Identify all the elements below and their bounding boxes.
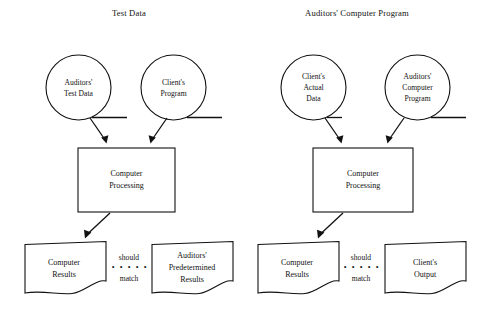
audit-flowchart-diagram: Test Data Auditors' Test Data Client's P… [0,0,488,318]
node-clients-program: Client's Program [141,55,222,120]
label-auditors-computer-program-line2: Computer [402,83,433,92]
arrow-processing-to-results-left [84,213,110,239]
comparator-right-should: should [351,253,371,262]
comparator-left-should: should [119,253,139,262]
label-computer-processing-right-line2: Processing [346,181,381,190]
label-clients-program-line1: Client's [162,78,185,87]
label-clients-actual-data-line3: Data [306,94,321,103]
flowchart-canvas: Test Data Auditors' Test Data Client's P… [0,0,488,318]
label-clients-output-line1: Client's [413,258,437,267]
label-computer-results-right-line1: Computer [281,258,313,267]
arrow-processing-to-results-right [317,213,343,239]
process-computer-processing-left: Computer Processing [78,148,175,212]
label-auditors-predetermined-results-line3: Results [180,275,204,284]
label-computer-results-right-line2: Results [285,270,309,279]
doc-shape-computer-results-right [258,242,339,294]
label-auditors-predetermined-results-line1: Auditors' [177,251,207,260]
circle-auditors-test-data [46,55,111,120]
doc-shape-clients-output [385,242,466,294]
label-clients-program-line2: Program [160,89,186,98]
label-auditors-test-data-line2: Test Data [64,89,93,98]
comparator-left-match: match [120,274,139,283]
label-auditors-computer-program-line1: Auditors' [404,72,433,81]
comparator-right-match: match [352,274,371,283]
label-computer-processing-right-line1: Computer [347,169,379,178]
doc-shape-computer-results-left [25,242,106,294]
arrow-auditors-test-data-to-processing [90,118,108,144]
comparator-right-dots: • • • • • [344,263,380,272]
label-computer-processing-left-line1: Computer [111,169,143,178]
panel-auditors-computer-program: Auditors' Computer Program Client's Actu… [258,8,466,294]
arrow-clients-actual-data-to-processing [325,118,343,144]
document-computer-results-left: Computer Results [25,242,106,294]
document-clients-output: Client's Output [385,242,466,294]
label-auditors-predetermined-results-line2: Predetermined [169,263,216,272]
label-computer-results-left-line2: Results [52,270,76,279]
comparator-left-dots: • • • • • [112,263,148,272]
panel-title-test-data: Test Data [112,8,146,18]
process-computer-processing-right: Computer Processing [313,148,413,212]
node-clients-actual-data: Client's Actual Data [281,55,346,120]
label-computer-processing-left-line2: Processing [109,181,144,190]
label-clients-output-line2: Output [414,270,437,279]
circle-clients-program [141,55,206,120]
node-auditors-computer-program: Auditors' Computer Program [385,55,466,120]
label-clients-actual-data-line2: Actual [303,83,323,92]
label-auditors-test-data-line1: Auditors' [65,78,94,87]
node-auditors-test-data: Auditors' Test Data [46,55,127,120]
label-clients-actual-data-line1: Client's [302,72,325,81]
comparator-left: should • • • • • match [112,253,148,283]
comparator-right: should • • • • • match [344,253,380,283]
arrow-clients-program-to-processing [149,118,167,144]
document-auditors-predetermined-results: Auditors' Predetermined Results [152,242,233,294]
label-computer-results-left-line1: Computer [48,258,80,267]
arrow-auditors-computer-program-to-processing [386,118,404,144]
document-computer-results-right: Computer Results [258,242,339,294]
panel-test-data: Test Data Auditors' Test Data Client's P… [25,8,233,294]
label-auditors-computer-program-line3: Program [404,94,430,103]
panel-title-auditors-computer-program: Auditors' Computer Program [305,8,409,18]
